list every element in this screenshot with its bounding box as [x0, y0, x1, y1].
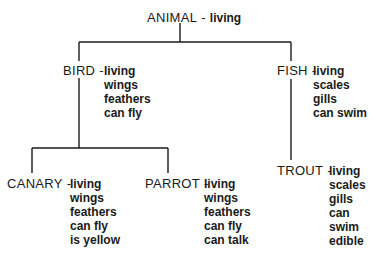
node-fish-attributes: living scales gills can swim: [313, 64, 367, 120]
node-animal-name: ANIMAL: [147, 10, 197, 25]
node-parrot-name: PARROT: [145, 176, 200, 191]
attribute: can swim: [313, 106, 367, 120]
attribute: feathers: [70, 205, 120, 219]
node-trout: TROUT-: [277, 164, 336, 178]
semantic-network-diagram: ANIMAL-living BIRD- living wings feather…: [0, 0, 382, 253]
attribute: living: [104, 64, 151, 78]
attribute: gills: [313, 92, 367, 106]
attribute: wings: [70, 191, 120, 205]
attribute: living: [70, 177, 120, 191]
node-parrot: PARROT-: [145, 177, 213, 191]
attribute: gills: [329, 192, 382, 206]
connector-lines: [0, 0, 382, 253]
attribute: edible: [329, 234, 382, 248]
attribute: living: [313, 64, 367, 78]
attribute: wings: [104, 78, 151, 92]
attribute: can swim: [329, 206, 382, 234]
node-animal-attr: living: [210, 11, 241, 25]
attribute: can fly: [204, 219, 251, 233]
attribute: scales: [329, 178, 382, 192]
node-bird-name: BIRD: [63, 63, 95, 78]
attribute: feathers: [104, 92, 151, 106]
node-bird-attributes: living wings feathers can fly: [104, 64, 151, 120]
attribute: scales: [313, 78, 367, 92]
node-canary-name: CANARY: [7, 176, 63, 191]
node-trout-name: TROUT: [277, 163, 323, 178]
separator: -: [201, 10, 206, 25]
node-canary-attributes: living wings feathers can fly is yellow: [70, 177, 120, 247]
attribute: is yellow: [70, 233, 120, 247]
node-parrot-attributes: living wings feathers can fly can talk: [204, 177, 251, 247]
node-bird: BIRD-: [63, 64, 108, 78]
node-canary: CANARY-: [7, 177, 75, 191]
attribute: feathers: [204, 205, 251, 219]
attribute: can fly: [70, 219, 120, 233]
attribute: wings: [204, 191, 251, 205]
attribute: can talk: [204, 233, 251, 247]
node-trout-attributes: living scales gills can swim edible: [329, 164, 382, 248]
attribute: living: [329, 164, 382, 178]
node-animal: ANIMAL-living: [147, 8, 241, 26]
attribute: living: [204, 177, 251, 191]
attribute: can fly: [104, 106, 151, 120]
node-fish-name: FISH: [277, 63, 308, 78]
